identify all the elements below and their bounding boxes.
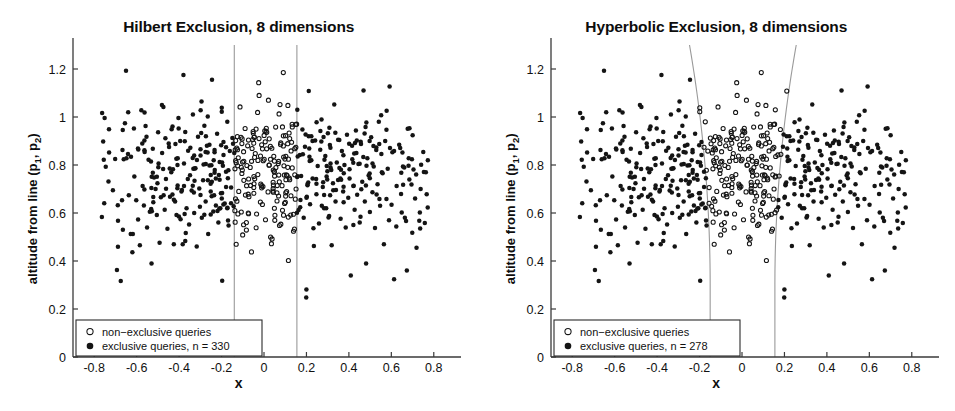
data-point-exclusive: [869, 277, 874, 282]
data-point-exclusive: [832, 138, 837, 143]
data-point-exclusive: [157, 241, 162, 246]
data-point-exclusive: [664, 222, 669, 227]
data-point-exclusive: [216, 220, 221, 225]
data-point-non-exclusive: [260, 147, 264, 151]
data-point-exclusive: [683, 114, 688, 119]
data-point-exclusive: [411, 167, 416, 172]
data-point-non-exclusive: [734, 137, 738, 141]
data-point-exclusive: [360, 180, 365, 185]
data-point-exclusive: [689, 158, 694, 163]
data-point-exclusive: [854, 120, 859, 125]
data-point-exclusive: [318, 147, 323, 152]
panel-hilbert: Hilbert Exclusion, 8 dimensionsaltitude …: [0, 0, 478, 411]
data-point-exclusive: [651, 142, 656, 147]
data-point-non-exclusive: [726, 183, 730, 187]
data-point-exclusive: [326, 215, 331, 220]
data-point-exclusive: [407, 126, 412, 131]
data-point-exclusive: [690, 150, 695, 155]
legend[interactable]: non−exclusive queriesexclusive queries, …: [76, 320, 262, 356]
data-point-exclusive: [635, 241, 640, 246]
data-point-non-exclusive: [722, 228, 726, 232]
data-point-exclusive: [826, 273, 831, 278]
data-point-non-exclusive: [712, 242, 716, 246]
data-point-exclusive: [703, 218, 708, 223]
data-point-exclusive: [213, 168, 218, 173]
data-point-non-exclusive: [767, 149, 771, 153]
data-point-exclusive: [406, 163, 411, 168]
data-point-non-exclusive: [741, 140, 745, 144]
data-point-exclusive: [792, 120, 797, 125]
data-point-exclusive: [608, 250, 613, 255]
data-point-exclusive: [357, 220, 362, 225]
data-point-exclusive: [368, 176, 373, 181]
data-point-exclusive: [649, 198, 654, 203]
data-point-exclusive: [220, 109, 225, 114]
legend-label-non-exclusive: non−exclusive queries: [580, 326, 690, 338]
data-point-exclusive: [810, 102, 815, 107]
data-point-exclusive: [367, 171, 372, 176]
data-point-non-exclusive: [764, 258, 768, 262]
data-point-exclusive: [687, 180, 692, 185]
data-point-exclusive: [640, 207, 645, 212]
data-point-exclusive: [696, 143, 701, 148]
data-point-exclusive: [341, 189, 346, 194]
data-point-non-exclusive: [727, 159, 731, 163]
data-point-exclusive: [872, 184, 877, 189]
x-tick-label: 0: [738, 361, 745, 375]
data-point-exclusive: [627, 261, 632, 266]
data-point-exclusive: [405, 268, 410, 273]
data-point-exclusive: [214, 203, 219, 208]
data-point-non-exclusive: [719, 150, 723, 154]
data-point-non-exclusive: [290, 166, 294, 170]
data-point-exclusive: [226, 223, 231, 228]
data-point-exclusive: [652, 213, 657, 218]
data-point-exclusive: [295, 154, 300, 159]
data-point-exclusive: [865, 84, 870, 89]
data-point-exclusive: [351, 184, 356, 189]
data-point-exclusive: [704, 223, 709, 228]
data-point-exclusive: [414, 246, 419, 251]
y-tick-label: 0.4: [49, 255, 66, 269]
data-point-exclusive: [888, 231, 893, 236]
data-point-non-exclusive: [257, 81, 261, 85]
data-point-non-exclusive: [241, 233, 245, 237]
data-point-non-exclusive: [749, 154, 753, 158]
data-point-exclusive: [811, 188, 816, 193]
data-point-non-exclusive: [250, 159, 254, 163]
data-point-exclusive: [848, 190, 853, 195]
data-point-exclusive: [662, 206, 667, 211]
data-point-non-exclusive: [751, 165, 755, 169]
data-point-exclusive: [335, 160, 340, 165]
data-point-exclusive: [584, 150, 589, 155]
data-point-exclusive: [308, 202, 313, 207]
x-tick-label: 0.8: [425, 361, 442, 375]
data-point-exclusive: [819, 153, 824, 158]
data-point-exclusive: [312, 244, 317, 249]
data-point-exclusive: [665, 173, 670, 178]
data-point-exclusive: [637, 151, 642, 156]
data-point-non-exclusive: [257, 137, 261, 141]
data-point-exclusive: [577, 111, 582, 116]
data-point-exclusive: [161, 193, 166, 198]
data-point-exclusive: [835, 161, 840, 166]
data-point-non-exclusive: [233, 220, 237, 224]
data-point-exclusive: [598, 128, 603, 133]
data-point-exclusive: [837, 187, 842, 192]
data-point-exclusive: [363, 199, 368, 204]
data-point-non-exclusive: [245, 184, 249, 188]
data-point-exclusive: [619, 203, 624, 208]
data-point-exclusive: [423, 221, 428, 226]
data-point-non-exclusive: [254, 226, 258, 230]
data-point-non-exclusive: [772, 187, 776, 191]
legend[interactable]: non−exclusive queriesexclusive queries, …: [554, 320, 740, 356]
data-point-exclusive: [797, 203, 802, 208]
data-point-exclusive: [102, 116, 107, 121]
data-point-exclusive: [699, 202, 704, 207]
data-point-exclusive: [300, 127, 305, 132]
data-point-exclusive: [643, 227, 648, 232]
data-point-non-exclusive: [750, 174, 754, 178]
data-point-exclusive: [113, 157, 118, 162]
x-tick-label: -0.8: [561, 361, 583, 375]
data-point-non-exclusive: [741, 218, 745, 222]
data-point-exclusive: [120, 148, 125, 153]
